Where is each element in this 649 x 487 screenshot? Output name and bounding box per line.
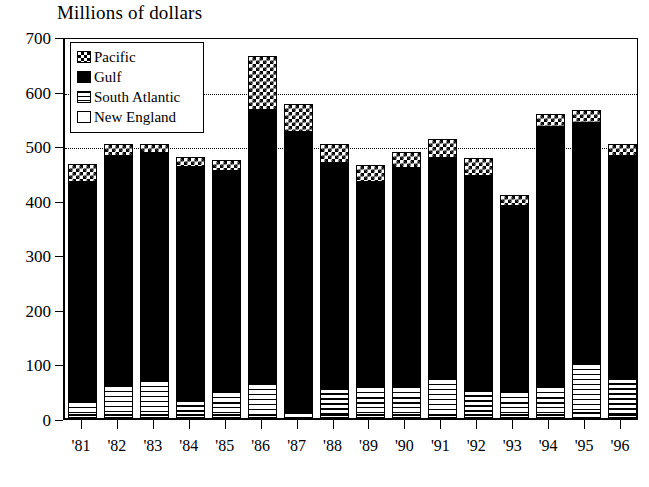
bar-segment-south-atlantic xyxy=(500,391,529,415)
bar-segment-gulf xyxy=(500,206,529,391)
bar-segment-new-england xyxy=(68,415,97,418)
y-tick-label-600: 600 xyxy=(5,85,51,102)
x-tick-label-91: '91 xyxy=(422,438,458,454)
bar-segment-pacific xyxy=(428,139,457,158)
y-tick-0 xyxy=(55,420,63,421)
bar-segment-gulf xyxy=(104,156,133,385)
x-tick-94 xyxy=(548,420,549,429)
bar-segment-gulf xyxy=(68,182,97,400)
y-tick-label-200: 200 xyxy=(5,303,51,320)
bar-segment-south-atlantic xyxy=(284,409,313,412)
bar-segment-new-england xyxy=(212,415,241,418)
x-tick-89 xyxy=(368,420,369,429)
legend-swatch-south-atlantic-icon xyxy=(77,91,91,103)
bar-segment-pacific xyxy=(392,152,421,168)
bar-segment-new-england xyxy=(428,415,457,418)
legend-swatch-pacific-icon xyxy=(77,51,91,63)
bar-segment-south-atlantic xyxy=(104,385,133,415)
y-tick-100 xyxy=(55,365,63,366)
x-tick-label-96: '96 xyxy=(602,438,638,454)
bar-segment-gulf xyxy=(320,163,349,387)
x-tick-96 xyxy=(620,420,621,429)
x-tick-label-94: '94 xyxy=(530,438,566,454)
bar-87 xyxy=(284,36,313,418)
x-tick-label-86: '86 xyxy=(243,438,279,454)
bar-segment-pacific xyxy=(572,110,601,123)
y-tick-label-300: 300 xyxy=(5,248,51,265)
y-tick-label-100: 100 xyxy=(5,357,51,374)
x-tick-90 xyxy=(404,420,405,429)
bar-segment-pacific xyxy=(536,114,565,127)
x-tick-82 xyxy=(117,420,118,429)
bar-segment-new-england xyxy=(140,415,169,418)
bar-segment-pacific xyxy=(320,144,349,164)
bar-93 xyxy=(500,36,529,418)
bar-90 xyxy=(392,36,421,418)
legend-item-pacific: Pacific xyxy=(77,47,198,67)
bar-segment-south-atlantic xyxy=(248,383,277,416)
bar-segment-new-england xyxy=(572,413,601,418)
bar-segment-new-england xyxy=(104,415,133,418)
bar-segment-pacific xyxy=(356,165,385,181)
x-tick-label-82: '82 xyxy=(99,438,135,454)
x-tick-label-81: '81 xyxy=(63,438,99,454)
bar-85 xyxy=(212,36,241,418)
bar-segment-south-atlantic xyxy=(356,386,385,415)
y-tick-label-0: 0 xyxy=(5,412,51,429)
bar-segment-new-england xyxy=(536,415,565,418)
bar-segment-new-england xyxy=(608,415,637,418)
legend-swatch-gulf-icon xyxy=(77,71,91,83)
bar-segment-gulf xyxy=(392,168,421,386)
legend: PacificGulfSouth AtlanticNew England xyxy=(70,42,204,133)
bar-segment-gulf xyxy=(176,167,205,399)
legend-label: Gulf xyxy=(94,70,122,85)
legend-item-gulf: Gulf xyxy=(77,67,198,87)
x-tick-label-95: '95 xyxy=(566,438,602,454)
bar-segment-south-atlantic xyxy=(572,363,601,412)
bar-segment-gulf xyxy=(284,132,313,409)
bar-segment-pacific xyxy=(212,160,241,170)
bar-segment-south-atlantic xyxy=(140,380,169,415)
bar-segment-gulf xyxy=(428,158,457,378)
bar-segment-new-england xyxy=(356,415,385,418)
x-tick-86 xyxy=(261,420,262,429)
bar-segment-south-atlantic xyxy=(68,401,97,415)
bar-segment-south-atlantic xyxy=(176,399,205,415)
x-tick-91 xyxy=(440,420,441,429)
bar-segment-pacific xyxy=(104,144,133,155)
bar-segment-gulf xyxy=(608,156,637,378)
bar-segment-south-atlantic xyxy=(464,389,493,415)
x-tick-87 xyxy=(297,420,298,429)
bar-segment-gulf xyxy=(464,176,493,389)
x-tick-label-93: '93 xyxy=(494,438,530,454)
legend-label: South Atlantic xyxy=(94,90,180,105)
bar-segment-pacific xyxy=(140,144,169,153)
bar-segment-pacific xyxy=(284,104,313,132)
bar-92 xyxy=(464,36,493,418)
chart-page: Millions of dollars 01002003004005006007… xyxy=(0,0,649,487)
bar-segment-pacific xyxy=(500,195,529,206)
chart-title: Millions of dollars xyxy=(57,2,202,24)
x-tick-label-85: '85 xyxy=(207,438,243,454)
bar-segment-south-atlantic xyxy=(212,391,241,416)
y-tick-700 xyxy=(55,38,63,39)
bar-86 xyxy=(248,36,277,418)
bar-segment-south-atlantic xyxy=(392,386,421,415)
x-tick-label-87: '87 xyxy=(279,438,315,454)
bar-segment-south-atlantic xyxy=(608,377,637,415)
bar-segment-gulf xyxy=(572,123,601,364)
x-tick-label-92: '92 xyxy=(458,438,494,454)
bar-segment-new-england xyxy=(284,413,313,418)
x-tick-84 xyxy=(189,420,190,429)
bar-segment-gulf xyxy=(356,182,385,387)
y-tick-600 xyxy=(55,93,63,94)
x-tick-92 xyxy=(476,420,477,429)
bar-88 xyxy=(320,36,349,418)
bar-95 xyxy=(572,36,601,418)
y-tick-500 xyxy=(55,147,63,148)
x-tick-label-89: '89 xyxy=(350,438,386,454)
y-tick-label-700: 700 xyxy=(5,30,51,47)
legend-swatch-new-england-icon xyxy=(77,111,91,123)
x-tick-95 xyxy=(584,420,585,429)
legend-item-new-england: New England xyxy=(77,107,198,127)
